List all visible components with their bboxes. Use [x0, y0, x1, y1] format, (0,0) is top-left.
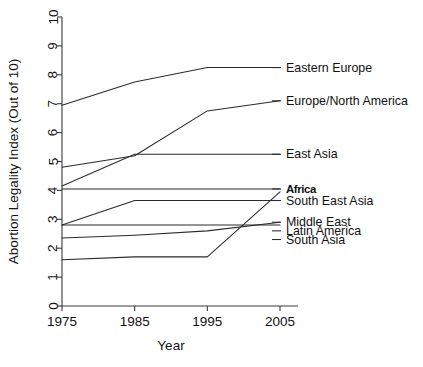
series-label-europe-north-america: Europe/North America	[286, 94, 408, 108]
y-axis-tick-label: 9	[46, 42, 61, 50]
series-label-east-asia: East Asia	[286, 147, 338, 161]
y-axis-tick-label: 7	[46, 100, 61, 108]
line-chart: 0123456789101975198519952005YearAbortion…	[0, 0, 423, 367]
y-axis-tick-label: 0	[46, 302, 61, 310]
y-axis-title: Abortion Legality Index (Out of 10)	[6, 59, 21, 265]
y-axis-tick-label: 3	[46, 216, 61, 224]
y-axis-tick-label: 8	[46, 71, 61, 79]
y-axis-tick-label: 4	[46, 186, 61, 194]
y-axis-tick-label: 5	[46, 158, 61, 166]
series-label-south-east-asia: South East Asia	[286, 194, 374, 208]
series-line-eastern-europe	[62, 68, 280, 106]
y-axis-tick-label: 1	[46, 273, 61, 281]
x-axis-tick-label: 1975	[47, 314, 77, 329]
series-line-europe-north-america	[62, 101, 280, 167]
series-line-east-asia	[62, 154, 280, 186]
series-label-south-asia: South Asia	[286, 233, 345, 247]
x-axis-tick-label: 1985	[120, 314, 150, 329]
y-axis-tick-label: 6	[46, 129, 61, 137]
y-axis-tick-label: 2	[46, 244, 61, 252]
x-axis-tick-label: 1995	[192, 314, 222, 329]
chart-canvas: 0123456789101975198519952005YearAbortion…	[0, 0, 423, 367]
x-axis-tick-label: 2005	[265, 314, 295, 329]
x-axis-title: Year	[157, 338, 185, 353]
y-axis-tick-label: 10	[46, 9, 61, 24]
series-label-eastern-europe: Eastern Europe	[286, 61, 372, 75]
